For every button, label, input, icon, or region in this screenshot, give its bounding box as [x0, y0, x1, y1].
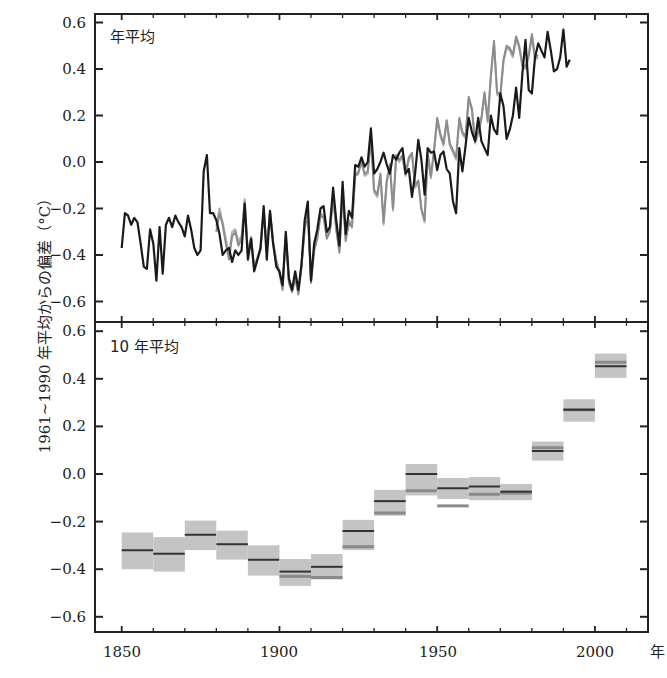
- x-tick-1950: 1950: [419, 643, 457, 661]
- y-tick-label-top: −0.4: [50, 246, 86, 264]
- y-tick-label-bottom: −0.4: [50, 560, 86, 578]
- annual-mean-panel: [122, 30, 570, 295]
- x-tick-2000: 2000: [576, 643, 614, 661]
- y-tick-label-top: 0.4: [62, 60, 86, 78]
- y-tick-label-top: 0.0: [62, 153, 86, 171]
- top-panel-title: 年平均: [110, 28, 155, 46]
- y-tick-label-top: −0.6: [50, 293, 86, 311]
- y-tick-label-top: 0.2: [62, 107, 86, 125]
- annual-series-line: [216, 34, 538, 294]
- y-tick-label-top: 0.6: [62, 14, 86, 32]
- x-tick-1850: 1850: [103, 643, 141, 661]
- y-axis-title: 1961~1990 年平均からの偏差（°C）: [36, 191, 54, 454]
- bottom-panel-frame: [95, 322, 648, 632]
- temperature-anomaly-chart: −0.6−0.4−0.20.00.20.40.6−0.6−0.4−0.20.00…: [0, 0, 667, 678]
- y-tick-label-bottom: 0.2: [62, 417, 86, 435]
- bottom-panel-title: 10 年平均: [110, 338, 179, 356]
- y-tick-label-bottom: −0.2: [50, 513, 86, 531]
- decadal-mean-panel: [122, 354, 627, 586]
- y-tick-label-bottom: 0.0: [62, 465, 86, 483]
- y-tick-label-top: −0.2: [50, 200, 86, 218]
- x-axis-unit: 年: [650, 643, 665, 661]
- x-tick-1900: 1900: [260, 643, 298, 661]
- y-tick-label-bottom: 0.4: [62, 370, 86, 388]
- y-tick-label-bottom: 0.6: [62, 322, 86, 340]
- decade-range-box: [469, 477, 501, 500]
- y-tick-label-bottom: −0.6: [50, 608, 86, 626]
